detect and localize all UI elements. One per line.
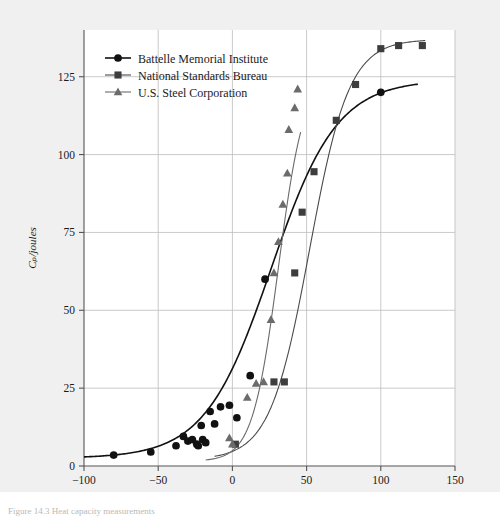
data-point-circle: [217, 403, 225, 411]
ytick-label: 50: [64, 304, 76, 316]
xtick-label: −100: [72, 474, 96, 486]
legend-label: U.S. Steel Corporation: [138, 86, 247, 100]
data-point-square: [352, 81, 359, 88]
xtick-label: 0: [230, 474, 236, 486]
xtick-label: 100: [372, 474, 390, 486]
data-point-circle: [172, 442, 180, 450]
ytick-label: 100: [58, 149, 76, 161]
data-point-square: [310, 168, 317, 175]
figure-caption: Figure 14.3 Heat capacity measurements: [8, 506, 488, 520]
data-point-circle: [226, 401, 234, 409]
data-point-square: [291, 269, 298, 276]
ytick-label: 25: [64, 382, 76, 394]
data-point-circle: [147, 448, 155, 456]
legend-label: Battelle Memorial Institute: [138, 52, 268, 66]
data-point-square: [299, 209, 306, 216]
data-point-circle: [194, 442, 202, 450]
xtick-label: 50: [301, 474, 313, 486]
data-point-circle: [246, 372, 254, 380]
data-point-circle: [197, 422, 205, 430]
data-point-square: [281, 378, 288, 385]
data-point-circle: [233, 414, 241, 422]
chart-figure: −100−500501001500255075100125temperature…: [0, 0, 500, 492]
data-point-circle: [377, 88, 385, 96]
data-point-square: [377, 45, 384, 52]
ytick-label: 0: [69, 460, 75, 472]
data-point-circle: [261, 275, 269, 283]
data-point-circle: [206, 408, 214, 416]
data-point-square: [270, 378, 277, 385]
data-point-circle: [211, 420, 219, 428]
data-point-square: [419, 42, 426, 49]
ytick-label: 125: [58, 71, 76, 83]
xaxis-label: temperature/°C: [236, 490, 303, 492]
legend-label: National Standards Bureau: [138, 69, 267, 83]
data-point-circle: [202, 439, 210, 447]
legend-marker-circle: [114, 54, 122, 62]
data-point-square: [395, 42, 402, 49]
chart-svg: −100−500501001500255075100125temperature…: [0, 0, 500, 492]
xtick-label: −50: [149, 474, 167, 486]
data-point-square: [333, 117, 340, 124]
ytick-label: 75: [64, 226, 76, 238]
figure-page: −100−500501001500255075100125temperature…: [0, 0, 500, 523]
data-point-circle: [110, 451, 118, 459]
legend-marker-square: [114, 71, 121, 78]
xtick-label: 150: [446, 474, 464, 486]
yaxis-label: Cₚ/joules: [26, 227, 38, 269]
